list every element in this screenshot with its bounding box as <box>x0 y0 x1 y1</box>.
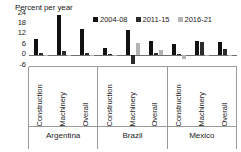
bar-cluster <box>121 13 144 65</box>
bar-slot <box>80 13 84 65</box>
bar[interactable] <box>136 43 140 54</box>
bar-slot <box>136 13 140 65</box>
bar[interactable] <box>131 55 135 65</box>
y-axis-tick: -6 <box>19 61 26 69</box>
category-label-cell: Overall <box>213 67 236 127</box>
bar-slot <box>108 13 112 65</box>
bar-slot <box>154 13 158 65</box>
bar-slot <box>218 13 222 65</box>
category-label-block: ConstructionMachineryOverall <box>167 67 237 127</box>
y-axis-tick: 6 <box>22 40 26 48</box>
bar-cluster <box>145 13 168 65</box>
bar[interactable] <box>108 54 112 55</box>
bar[interactable] <box>113 55 117 56</box>
bar-slot <box>182 13 186 65</box>
bar-slot <box>149 13 153 65</box>
bar-groups <box>29 13 237 65</box>
category-label: Machinery <box>129 91 137 126</box>
bar[interactable] <box>177 54 181 55</box>
category-label-cell: Overall <box>75 67 98 127</box>
bar[interactable] <box>103 48 107 55</box>
category-label-cell: Overall <box>144 67 167 127</box>
category-label: Overall <box>82 102 90 126</box>
bar-slot <box>200 13 204 65</box>
category-label-cell: Construction <box>29 67 52 127</box>
category-label-block: ConstructionMachineryOverall <box>28 67 98 127</box>
bar-slot <box>126 13 130 65</box>
category-label-cell: Machinery <box>52 67 75 127</box>
bar[interactable] <box>80 29 84 55</box>
bar[interactable] <box>34 39 38 55</box>
bar[interactable] <box>228 55 232 57</box>
chart-container: Percent per year 24181260-6 2004-082011-… <box>0 0 241 152</box>
bar[interactable] <box>67 55 71 56</box>
bar[interactable] <box>200 42 204 55</box>
bar-slot <box>177 13 181 65</box>
bar-cluster <box>75 13 98 65</box>
y-axis-tick: 12 <box>18 29 26 37</box>
bar-cluster <box>168 13 191 65</box>
bar[interactable] <box>62 51 66 54</box>
category-label-block: ConstructionMachineryOverall <box>97 67 167 127</box>
bar-slot <box>205 13 209 65</box>
bar-cluster <box>191 13 214 65</box>
bar-slot <box>172 13 176 65</box>
country-label-cell: Mexico <box>167 127 237 149</box>
bar-slot <box>90 13 94 65</box>
bar-slot <box>62 13 66 65</box>
bar-slot <box>113 13 117 65</box>
bar[interactable] <box>57 15 61 55</box>
country-label-cell: Argentina <box>28 127 98 149</box>
plot-area <box>29 13 237 65</box>
y-axis-tick: 18 <box>18 19 26 27</box>
bar[interactable] <box>172 44 176 54</box>
bar[interactable] <box>159 50 163 54</box>
category-label: Construction <box>175 84 183 126</box>
bar[interactable] <box>182 55 186 59</box>
category-label: Machinery <box>59 91 67 126</box>
country-group-mexico <box>168 13 237 65</box>
y-axis-tick: 24 <box>18 9 26 17</box>
bar-cluster <box>52 13 75 65</box>
bar-slot <box>85 13 89 65</box>
category-axis: ConstructionMachineryOverallConstruction… <box>29 66 237 127</box>
bar-slot <box>44 13 48 65</box>
category-label: Overall <box>221 102 229 126</box>
country-axis: ArgentinaBrazilMexico <box>29 126 237 149</box>
bar[interactable] <box>90 55 94 56</box>
bar-slot <box>228 13 232 65</box>
bar[interactable] <box>223 49 227 55</box>
country-label: Brazil <box>122 127 142 140</box>
bar[interactable] <box>39 53 43 54</box>
category-label-cell: Machinery <box>190 67 213 127</box>
bar-cluster <box>214 13 237 65</box>
bar[interactable] <box>218 42 222 54</box>
bar-slot <box>34 13 38 65</box>
category-label-cell: Construction <box>98 67 121 127</box>
bar[interactable] <box>44 55 48 56</box>
bar-slot <box>223 13 227 65</box>
bar-slot <box>195 13 199 65</box>
y-axis-tick: 0 <box>22 50 26 58</box>
country-label: Argentina <box>46 127 80 140</box>
y-axis: 24181260-6 <box>0 12 28 66</box>
bar-slot <box>39 13 43 65</box>
bar-slot <box>103 13 107 65</box>
bar[interactable] <box>126 30 130 54</box>
category-label-cell: Machinery <box>121 67 144 127</box>
bar-slot <box>131 13 135 65</box>
bar[interactable] <box>154 53 158 54</box>
bar[interactable] <box>195 41 199 55</box>
bar-cluster <box>29 13 52 65</box>
category-label: Machinery <box>198 91 206 126</box>
bar-cluster <box>98 13 121 65</box>
category-label-cell: Construction <box>168 67 191 127</box>
country-group-argentina <box>29 13 98 65</box>
country-label-cell: Brazil <box>97 127 167 149</box>
bar[interactable] <box>85 53 89 55</box>
bar[interactable] <box>149 41 153 55</box>
bar[interactable] <box>205 55 209 56</box>
category-label: Construction <box>106 84 114 126</box>
country-group-brazil <box>98 13 167 65</box>
bar-slot <box>57 13 61 65</box>
